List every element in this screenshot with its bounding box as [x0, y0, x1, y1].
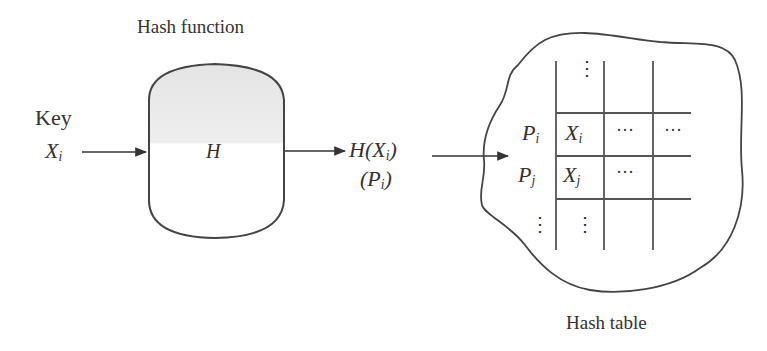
- pointer-pi: Pi: [522, 120, 539, 147]
- pointer-bottom-dots: ⋮: [530, 212, 550, 236]
- cell-ellipsis: ···: [616, 120, 634, 141]
- table-top-dots: ⋮: [577, 62, 597, 74]
- cell-xj: Xj: [563, 162, 580, 189]
- hash-table-title: Hash table: [566, 312, 647, 334]
- key-label: Key: [35, 105, 72, 131]
- pointer-pj: Pj: [518, 162, 535, 189]
- cell-ellipsis: ···: [664, 120, 682, 141]
- hash-output-position: (Pi): [360, 166, 392, 193]
- hash-function-symbol: H: [206, 140, 220, 163]
- hash-output: H(Xi): [349, 137, 397, 164]
- cell-ellipsis: ···: [616, 162, 634, 183]
- key-variable: Xi: [45, 138, 62, 165]
- cell-bottom-dots: ⋮: [575, 212, 595, 236]
- cell-xi: Xi: [565, 120, 582, 147]
- hash-function-title: Hash function: [137, 16, 244, 38]
